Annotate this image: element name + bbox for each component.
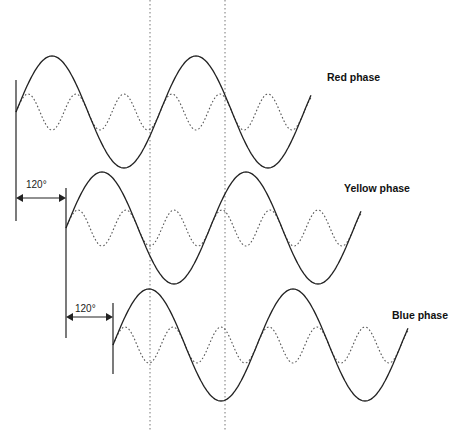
displacement-arrow-1-left-arrowhead-icon [16,194,23,202]
red-fundamental-wave [16,56,311,168]
red-phase-label: Red phase [327,71,380,83]
displacement-label-2: 120° [75,303,96,314]
yellow-fundamental-wave [66,172,361,284]
blue-third-harmonic-wave [113,327,408,363]
yellow-third-harmonic-wave [66,210,361,246]
red-third-harmonic-wave [16,94,311,130]
displacement-arrow-2-right-arrowhead-icon [106,313,113,321]
blue-fundamental-wave [113,289,408,401]
displacement-arrow-1-right-arrowhead-icon [59,194,66,202]
yellow-phase-label: Yellow phase [344,182,410,194]
three-phase-diagram [0,0,464,444]
displacement-label-1: 120° [26,179,47,190]
blue-phase-label: Blue phase [392,309,448,321]
displacement-arrow-2-left-arrowhead-icon [66,313,73,321]
